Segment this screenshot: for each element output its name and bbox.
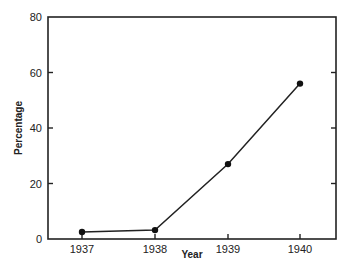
y-tick-label: 20 bbox=[30, 178, 42, 190]
data-point bbox=[297, 80, 303, 86]
data-point bbox=[225, 161, 231, 167]
plot-frame bbox=[48, 17, 336, 239]
y-tick-label: 40 bbox=[30, 122, 42, 134]
line-chart: 020406080 1937193819391940 Year Percenta… bbox=[0, 0, 355, 276]
x-tick-label: 1938 bbox=[143, 243, 167, 255]
x-tick-label: 1939 bbox=[216, 243, 240, 255]
x-tick-label: 1937 bbox=[70, 243, 94, 255]
data-point bbox=[152, 227, 158, 233]
data-point bbox=[79, 229, 85, 235]
y-tick-label: 80 bbox=[30, 11, 42, 23]
x-tick-label: 1940 bbox=[288, 243, 312, 255]
x-axis-title: Year bbox=[181, 249, 202, 260]
y-axis-title: Percentage bbox=[13, 101, 24, 155]
y-tick-label: 60 bbox=[30, 67, 42, 79]
series-line bbox=[82, 84, 300, 232]
y-tick-label: 0 bbox=[36, 233, 42, 245]
